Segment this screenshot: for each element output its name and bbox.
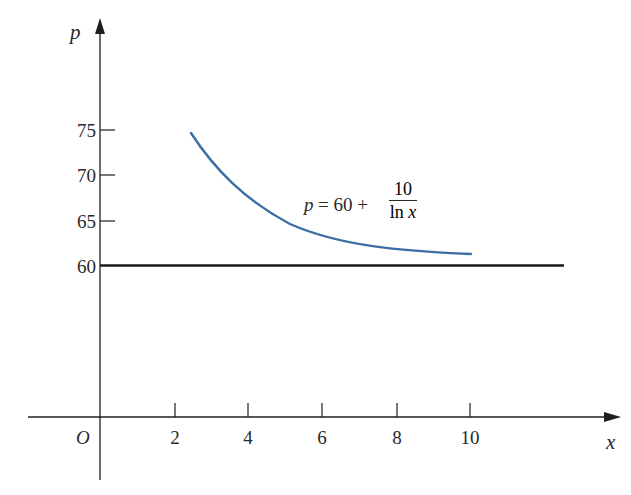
x-tick-label: 2 — [160, 428, 190, 447]
den-x-text: x — [408, 202, 416, 222]
origin-label: O — [76, 428, 90, 447]
fraction-numerator: 10 — [394, 180, 412, 198]
x-axis-label: x — [606, 432, 615, 453]
y-tick-label: 65 — [56, 212, 96, 231]
x-tick-label: 8 — [382, 428, 412, 447]
y-ticks — [100, 130, 115, 221]
x-tick-label: 10 — [455, 428, 485, 447]
fraction-denominator: ln x — [390, 203, 417, 221]
y-tick-label: 75 — [56, 121, 96, 140]
equation-p: p — [304, 195, 314, 214]
equation-left: = 60 + — [318, 195, 368, 214]
fraction-bar — [389, 200, 417, 201]
y-tick-label: 70 — [56, 166, 96, 185]
x-tick-label: 6 — [307, 428, 337, 447]
x-tick-label: 4 — [233, 428, 263, 447]
chart-canvas — [0, 0, 631, 495]
y-tick-label: 60 — [56, 257, 96, 276]
equation-fraction: 10 ln x — [389, 180, 417, 221]
x-axis-arrow-icon — [604, 412, 621, 422]
x-ticks — [175, 403, 470, 417]
y-axis-arrow-icon — [95, 18, 105, 34]
ln-text: ln — [390, 202, 404, 222]
y-axis-label: p — [70, 22, 81, 43]
